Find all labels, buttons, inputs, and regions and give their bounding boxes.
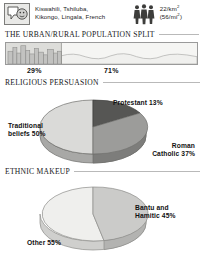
label-bantu-line-1: Bantu and (135, 204, 169, 211)
label-catholic-line-2: Catholic 37% (152, 150, 195, 157)
urban-rural-illustration (5, 42, 198, 65)
label-bantu-hamitic: Bantu and Hamitic 45% (135, 204, 176, 221)
speech-bubble-face-icon (4, 3, 30, 29)
languages-line-1: Kiswahili, Tshiluba, (35, 5, 88, 12)
demographics-infographic-page: Kiswahili, Tshiluba, Kikongo, Lingala, F… (0, 0, 205, 267)
facts-row: Kiswahili, Tshiluba, Kikongo, Lingala, F… (0, 0, 205, 28)
density-metric-sup: 2 (177, 4, 180, 9)
religion-section: RELIGIOUS PERSUASION (0, 78, 205, 167)
density-imperial-close: ) (180, 13, 182, 20)
label-traditional-line-2: beliefs 50% (8, 130, 46, 137)
heading-rule (103, 82, 200, 83)
urban-rural-svg (6, 43, 197, 64)
urban-rural-section: THE URBAN/RURAL POPULATION SPLIT (0, 28, 205, 78)
urban-rural-heading: THE URBAN/RURAL POPULATION SPLIT (5, 30, 199, 39)
label-bantu-line-2: Hamitic 45% (135, 212, 176, 219)
population-figures-icon (133, 3, 155, 29)
religion-pie-area: Protestant 13% Roman Catholic 37% Tradit… (5, 87, 200, 167)
urban-percent-label: 29% (27, 67, 42, 74)
ethnic-pie-area: Bantu and Hamitic 45% Other 55% (5, 176, 200, 256)
languages-fact: Kiswahili, Tshiluba, Kikongo, Lingala, F… (4, 3, 133, 29)
pie-top-face (42, 187, 148, 241)
label-protestant-text: Protestant 13% (113, 99, 163, 106)
ethnic-section: ETHNIC MAKEUP Bantu and Hamitic 45% (0, 167, 205, 256)
label-traditional-line-1: Traditional (8, 122, 43, 129)
urban-rural-heading-text: THE URBAN/RURAL POPULATION SPLIT (5, 30, 155, 39)
label-other-text: Other 55% (27, 239, 61, 246)
label-traditional: Traditional beliefs 50% (8, 122, 46, 139)
languages-line-2: Kikongo, Lingala, French (35, 13, 105, 20)
urban-skyline (6, 43, 61, 64)
population-density-fact: 22/km2 (56/mi2) (133, 3, 202, 29)
heading-rule (74, 171, 200, 172)
population-density-text: 22/km2 (56/mi2) (160, 3, 182, 20)
label-other: Other 55% (27, 239, 61, 247)
density-imperial: (56/mi (160, 13, 178, 20)
urban-rural-labels: 29% 71% (5, 65, 198, 78)
religion-heading-text: RELIGIOUS PERSUASION (5, 78, 99, 87)
ethnic-heading: ETHNIC MAKEUP (5, 167, 200, 176)
heading-rule (159, 34, 199, 35)
rural-percent-label: 71% (104, 67, 119, 74)
label-catholic-line-1: Roman (172, 142, 195, 149)
label-protestant: Protestant 13% (113, 99, 163, 107)
languages-text: Kiswahili, Tshiluba, Kikongo, Lingala, F… (35, 3, 105, 20)
religion-heading: RELIGIOUS PERSUASION (5, 78, 200, 87)
label-roman-catholic: Roman Catholic 37% (123, 142, 195, 159)
rural-hills (61, 54, 197, 64)
ethnic-heading-text: ETHNIC MAKEUP (5, 167, 70, 176)
density-metric: 22/km (160, 5, 177, 12)
